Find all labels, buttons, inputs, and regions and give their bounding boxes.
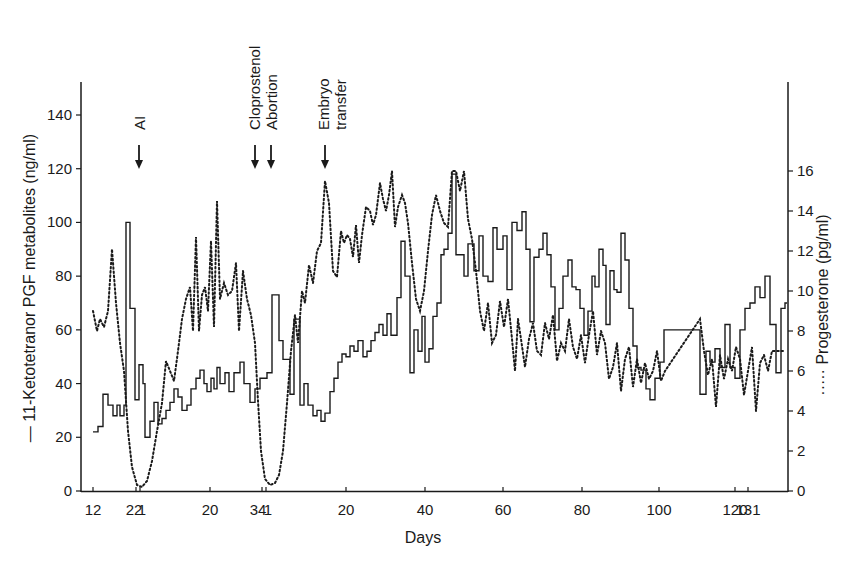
series-layer [93,171,787,487]
right-axis-title: ····· Progesterone (pg/ml) [814,214,831,395]
x-tick-label: 20 [202,501,219,518]
left-y-ticks: 020406080100120140 [47,106,81,499]
arrowhead-icon [135,160,143,169]
right-tick-label: 12 [797,242,814,259]
annotation-label: AI [131,116,148,130]
right-tick-label: 14 [797,202,814,219]
annotation-label: Abortion [263,74,280,130]
x-tick-label: 1 [264,501,272,518]
x-tick-label: 131 [735,501,760,518]
left-tick-label: 40 [55,375,72,392]
x-tick-label: 20 [338,501,355,518]
right-tick-label: 6 [797,362,805,379]
arrowhead-icon [321,160,329,169]
right-tick-label: 10 [797,282,814,299]
x-axis-title: Days [405,529,441,546]
left-tick-label: 100 [47,213,72,230]
progesterone-dotted-line [93,171,785,487]
chart-canvas: 020406080100120140 0246810121416 1222120… [0,0,849,562]
left-axis-title: — 11-Ketotetranor PGF metabolites (ng/ml… [21,134,38,442]
x-tick-label: 12 [85,501,102,518]
arrowhead-icon [251,160,259,169]
x-tick-label: 100 [646,501,671,518]
x-tick-label: 60 [495,501,512,518]
left-tick-label: 80 [55,267,72,284]
right-y-ticks: 0246810121416 [788,162,814,499]
x-tick-label: 80 [574,501,591,518]
right-tick-label: 4 [797,402,805,419]
right-tick-label: 0 [797,482,805,499]
pgf-metabolites-line [93,174,787,437]
left-tick-label: 20 [55,428,72,445]
annotation-label: Cloprostenol [246,46,263,130]
annotation-label: transfer [332,79,349,130]
axes [81,82,788,492]
annotation-label: Embryo [315,78,332,130]
right-tick-label: 16 [797,162,814,179]
left-tick-label: 0 [64,482,72,499]
event-annotations: AICloprostenolAbortionEmbryotransfer [131,46,349,169]
x-tick-label: 1 [138,501,146,518]
x-tick-label: 40 [417,501,434,518]
right-tick-label: 2 [797,442,805,459]
left-tick-label: 60 [55,321,72,338]
right-tick-label: 8 [797,322,805,339]
left-tick-label: 120 [47,160,72,177]
left-tick-label: 140 [47,106,72,123]
arrowhead-icon [267,160,275,169]
